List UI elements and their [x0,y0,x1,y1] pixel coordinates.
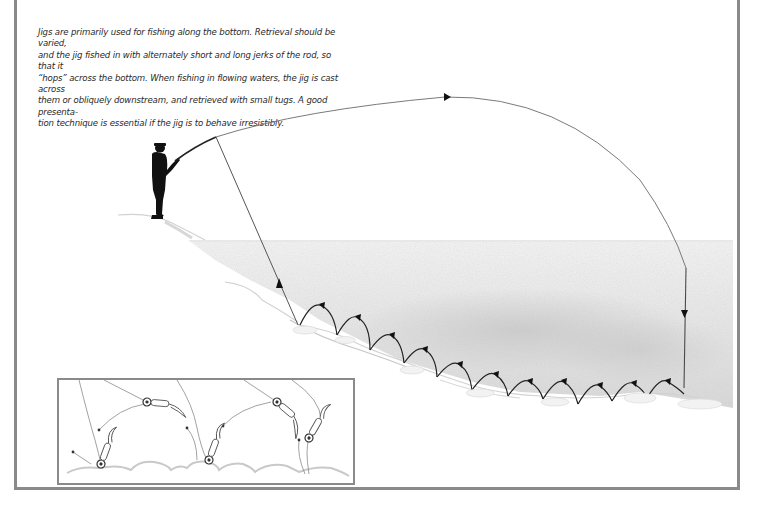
fishing-rod [175,137,216,161]
jig-lure-icon [204,421,227,465]
jig-detail-illustration [59,380,357,487]
inset-lines [73,380,321,474]
jig-detail-inset [57,378,355,485]
arrow-right-icon [444,93,451,101]
jig-lure-icon [264,396,309,438]
retrieve-line [216,137,298,325]
bank-shading [165,222,192,238]
angler-icon [151,143,180,219]
jig-lure-icon [142,398,187,418]
jig-lure-icon [96,425,119,469]
